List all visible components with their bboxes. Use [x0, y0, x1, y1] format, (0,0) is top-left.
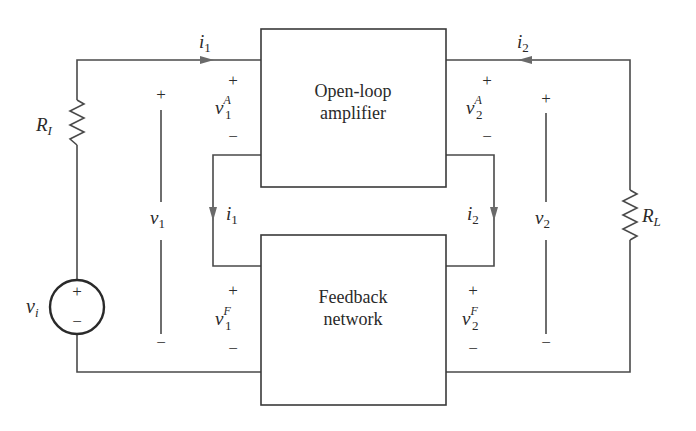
svg-text:−: −: [228, 339, 238, 358]
svg-text:−: −: [228, 127, 238, 146]
svg-text:+: +: [72, 282, 82, 301]
svg-text:v2: v2: [535, 207, 550, 231]
input-resistor-label: RI: [35, 114, 53, 138]
current-arrow-down-icon: [490, 207, 498, 221]
feedback-label-line1: Feedback: [319, 287, 388, 307]
svg-text:2: 2: [472, 318, 479, 333]
voltage-v1-indicator: + v1 −: [150, 85, 166, 352]
svg-text:−: −: [541, 333, 551, 352]
svg-text:+: +: [228, 281, 238, 300]
load-resistor-label: RL: [641, 205, 661, 229]
current-arrow-left-icon: [518, 56, 532, 64]
current-arrow-down-icon: [209, 207, 217, 221]
source-label: vi: [26, 295, 39, 320]
current-i1-top-label: i1: [199, 31, 211, 55]
svg-text:−: −: [468, 339, 478, 358]
current-i2-top-label: i2: [517, 31, 529, 55]
svg-text:+: +: [468, 281, 478, 300]
circuit-diagram: + − Open-loop amplifier Feedback network…: [0, 0, 696, 431]
amplifier-label-line2: amplifier: [320, 103, 386, 123]
svg-text:+: +: [156, 85, 166, 104]
svg-text:v1: v1: [150, 207, 165, 231]
input-resistor-icon: [70, 100, 84, 145]
voltage-source-icon: + −: [50, 280, 104, 334]
voltage-v1A-label: + vA 1 −: [215, 71, 238, 146]
current-i1-loop-label: i1: [226, 203, 238, 227]
amplifier-label-line1: Open-loop: [315, 81, 392, 101]
inner-left-loop-wire: [213, 155, 261, 266]
voltage-v2A-label: + vA 2 −: [466, 71, 492, 146]
voltage-v2-indicator: + v2 −: [535, 89, 551, 352]
voltage-v2F-label: + vF 2 −: [462, 281, 479, 358]
svg-text:−: −: [482, 127, 492, 146]
current-i2-loop-label: i2: [467, 203, 479, 227]
svg-text:1: 1: [225, 318, 232, 333]
feedback-label-line2: network: [324, 309, 383, 329]
svg-text:2: 2: [476, 107, 483, 122]
load-resistor-icon: [623, 190, 637, 240]
svg-text:+: +: [228, 71, 238, 90]
svg-text:−: −: [72, 312, 82, 331]
svg-text:+: +: [541, 89, 551, 108]
svg-text:+: +: [482, 71, 492, 90]
svg-text:1: 1: [225, 107, 232, 122]
voltage-v1F-label: + vF 1 −: [215, 281, 238, 358]
current-arrow-right-icon: [200, 56, 214, 64]
svg-text:−: −: [156, 333, 166, 352]
